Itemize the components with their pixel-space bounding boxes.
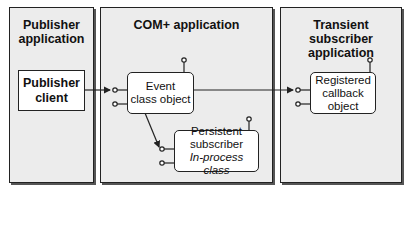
component-label: Persistent — [191, 125, 242, 138]
persistent-subscriber-box: Persistent subscriber In-process class — [174, 130, 259, 172]
component-label: callback — [322, 87, 364, 100]
component-label: subscriber — [190, 138, 243, 151]
event-class-object-box: Event class object — [127, 72, 194, 114]
component-label: client — [35, 91, 68, 106]
registered-callback-object-box: Registered callback object — [310, 72, 376, 114]
component-label: Registered — [315, 74, 371, 87]
component-label: object — [328, 100, 359, 113]
publisher-client-box: Publisher client — [18, 70, 85, 111]
component-label: In-process class — [175, 151, 258, 177]
component-label: class object — [130, 93, 190, 106]
component-label: Publisher — [23, 76, 80, 91]
component-label: Event — [146, 80, 175, 93]
